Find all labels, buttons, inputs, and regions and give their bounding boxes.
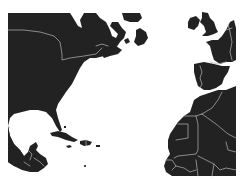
island-bahamas: [64, 126, 66, 128]
map-canvas[interactable]: [0, 0, 244, 179]
island-lesser-antilles: [84, 165, 86, 167]
island-puerto-rico: [96, 145, 100, 147]
